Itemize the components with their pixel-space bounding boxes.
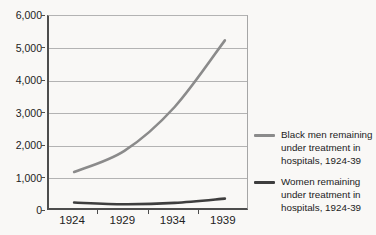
y-axis-tick-mark [41,210,45,211]
series-line-black-men [74,40,225,172]
y-axis-tick-label: 3,000 [0,108,42,118]
y-axis-tick-label: 1,000 [0,173,42,183]
x-axis-tick-label: 1929 [100,214,144,226]
legend-line-swatch [254,134,275,137]
chart-figure: Black men remaining under treatment in h… [0,0,376,235]
plot-area [47,15,248,210]
y-axis-tick-mark [41,15,45,16]
x-axis-tick-label: 1924 [50,214,94,226]
y-axis-tick-mark [41,177,45,178]
y-axis-tick-label: 0 [0,205,42,215]
legend: Black men remaining under treatment in h… [254,129,374,224]
y-axis-tick-label: 2,000 [0,140,42,150]
legend-item: Black men remaining under treatment in h… [254,129,374,167]
legend-line-swatch [254,181,275,184]
y-axis-tick-label: 6,000 [0,10,42,20]
x-axis-tick-mark [97,210,98,214]
y-axis-tick-label: 5,000 [0,43,42,53]
x-axis-tick-mark [198,210,199,214]
y-axis-tick-label: 4,000 [0,75,42,85]
x-axis-tick-label: 1934 [151,214,195,226]
legend-item: Women remaining under treatment in hospi… [254,176,374,214]
series-layer [49,16,250,211]
y-axis-tick-mark [41,80,45,81]
series-line-women [74,199,225,205]
x-axis-tick-mark [148,210,149,214]
legend-label: Black men remaining under treatment in h… [281,129,374,167]
y-axis-tick-mark [41,145,45,146]
y-axis-tick-mark [41,47,45,48]
y-axis-tick-mark [41,112,45,113]
x-axis-tick-label: 1939 [201,214,245,226]
legend-label: Women remaining under treatment in hospi… [281,176,374,214]
